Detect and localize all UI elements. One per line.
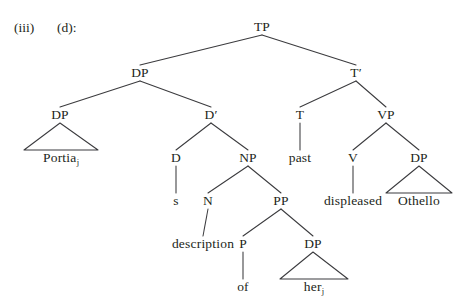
syntax-tree-figure: (iii) (d): TPDPT′DPD′TVPPortiajDNPpastVD… [0,0,475,307]
tree-node-of: of [237,280,249,294]
tree-edge [60,81,140,107]
tree-node-dp1: DP [131,66,149,80]
tree-edge [208,166,248,193]
tree-edge [386,123,419,150]
tree-node-dp4: DP [304,237,322,251]
tree-node-subscript: j [77,157,80,167]
tree-edge [203,209,208,236]
tree-edge [243,209,281,236]
tree-edge [356,81,386,107]
tree-node-portia: Portiaj [43,151,79,165]
tree-node-s: s [173,194,178,208]
tree-node-dp2: DP [51,108,69,122]
tree-edge [262,35,356,65]
tree-triangle [24,123,98,150]
tree-node-dp3: DP [410,151,428,165]
tree-edge [211,123,248,150]
tree-node-p: P [239,237,247,251]
tree-node-displeased: displeased [324,194,382,208]
tree-node-description: description [172,237,234,251]
tree-edge [248,166,281,193]
tree-node-np: NP [239,151,257,165]
tree-node-v: V [348,151,358,165]
tree-node-t: T [296,108,304,122]
tree-edge [281,209,313,236]
tree-edge [300,81,356,107]
tree-node-d: D [171,151,181,165]
tree-node-vp: VP [377,108,395,122]
tree-node-past: past [289,151,312,165]
tree-node-tp: TP [254,20,270,34]
tree-node-subscript: j [322,286,325,296]
tree-node-othello: Othello [398,194,440,208]
tree-triangle [386,166,452,193]
tree-node-n: N [203,194,213,208]
tree-edge [140,35,262,65]
tree-triangle [280,252,348,279]
tree-node-tbar: T′ [350,66,362,80]
tree-node-her: herj [304,280,324,294]
tree-node-pp: PP [273,194,288,208]
tree-edge [140,81,211,107]
tree-node-dbar: D′ [204,108,217,122]
tree-edge [176,123,211,150]
triangle-layer [24,123,452,279]
tree-edge [353,123,386,150]
